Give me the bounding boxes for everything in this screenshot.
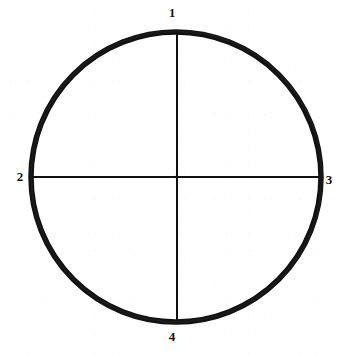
point-label-top: 1 (0, 7, 344, 20)
figure-canvas: 1 2 3 4 (0, 0, 344, 356)
center-point (175, 176, 177, 178)
point-label-left: 2 (12, 170, 28, 183)
point-label-bottom: 4 (0, 330, 344, 343)
point-label-right: 3 (321, 173, 337, 186)
quadrant-circle-diagram (0, 0, 344, 356)
